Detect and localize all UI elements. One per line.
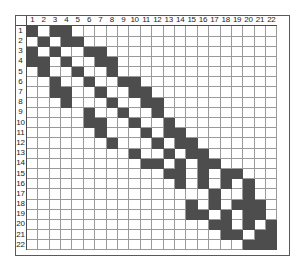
matrix-cell-r5-c20[interactable] — [243, 67, 254, 77]
matrix-cell-r15-c9[interactable] — [118, 168, 129, 178]
matrix-cell-r13-c22[interactable] — [266, 148, 277, 158]
matrix-cell-r18-c18[interactable] — [220, 199, 231, 209]
matrix-cell-r4-c3[interactable] — [49, 56, 60, 66]
matrix-cell-r22-c1[interactable] — [26, 240, 37, 250]
matrix-cell-r11-c1[interactable] — [26, 128, 37, 138]
matrix-cell-r13-c15[interactable] — [186, 148, 197, 158]
matrix-cell-r6-c5[interactable] — [72, 77, 83, 87]
matrix-cell-r19-c15[interactable] — [186, 209, 197, 219]
matrix-cell-r10-c1[interactable] — [26, 118, 37, 128]
matrix-cell-r7-c14[interactable] — [174, 87, 185, 97]
matrix-cell-r9-c4[interactable] — [61, 107, 72, 117]
matrix-cell-r16-c3[interactable] — [49, 179, 60, 189]
row-header-10[interactable]: 10 — [15, 118, 26, 128]
matrix-cell-r18-c6[interactable] — [83, 199, 94, 209]
matrix-cell-r19-c10[interactable] — [129, 209, 140, 219]
matrix-cell-r20-c2[interactable] — [38, 219, 49, 229]
matrix-cell-r1-c8[interactable] — [106, 26, 117, 37]
matrix-cell-r7-c20[interactable] — [243, 87, 254, 97]
column-header-17[interactable]: 17 — [209, 15, 220, 26]
matrix-cell-r16-c15[interactable] — [186, 179, 197, 189]
matrix-cell-r7-c17[interactable] — [209, 87, 220, 97]
matrix-cell-r10-c15[interactable] — [186, 118, 197, 128]
matrix-cell-r3-c18[interactable] — [220, 46, 231, 56]
matrix-cell-r8-c21[interactable] — [254, 97, 265, 107]
matrix-cell-r14-c6[interactable] — [83, 158, 94, 168]
matrix-cell-r19-c14[interactable] — [174, 209, 185, 219]
matrix-cell-r13-c7[interactable] — [95, 148, 106, 158]
matrix-cell-r9-c10[interactable] — [129, 107, 140, 117]
matrix-cell-r14-c8[interactable] — [106, 158, 117, 168]
matrix-cell-r15-c12[interactable] — [152, 168, 163, 178]
matrix-cell-r18-c13[interactable] — [163, 199, 174, 209]
matrix-cell-r13-c14[interactable] — [174, 148, 185, 158]
matrix-cell-r10-c5[interactable] — [72, 118, 83, 128]
matrix-cell-r22-c2[interactable] — [38, 240, 49, 250]
matrix-cell-r17-c16[interactable] — [197, 189, 208, 199]
column-header-4[interactable]: 4 — [61, 15, 72, 26]
matrix-cell-r5-c12[interactable] — [152, 67, 163, 77]
matrix-cell-r18-c17[interactable] — [209, 199, 220, 209]
matrix-cell-r6-c18[interactable] — [220, 77, 231, 87]
matrix-cell-r11-c18[interactable] — [220, 128, 231, 138]
matrix-cell-r18-c21[interactable] — [254, 199, 265, 209]
matrix-cell-r16-c16[interactable] — [197, 179, 208, 189]
matrix-cell-r15-c21[interactable] — [254, 168, 265, 178]
matrix-cell-r17-c8[interactable] — [106, 189, 117, 199]
matrix-cell-r14-c13[interactable] — [163, 158, 174, 168]
matrix-cell-r8-c8[interactable] — [106, 97, 117, 107]
matrix-cell-r13-c19[interactable] — [231, 148, 242, 158]
matrix-cell-r9-c7[interactable] — [95, 107, 106, 117]
matrix-cell-r22-c10[interactable] — [129, 240, 140, 250]
matrix-cell-r6-c4[interactable] — [61, 77, 72, 87]
matrix-cell-r14-c17[interactable] — [209, 158, 220, 168]
matrix-cell-r22-c5[interactable] — [72, 240, 83, 250]
matrix-cell-r2-c12[interactable] — [152, 36, 163, 46]
matrix-cell-r21-c7[interactable] — [95, 230, 106, 240]
matrix-cell-r2-c5[interactable] — [72, 36, 83, 46]
matrix-cell-r5-c19[interactable] — [231, 67, 242, 77]
matrix-cell-r1-c17[interactable] — [209, 26, 220, 37]
matrix-cell-r12-c3[interactable] — [49, 138, 60, 148]
matrix-cell-r3-c8[interactable] — [106, 46, 117, 56]
matrix-cell-r4-c12[interactable] — [152, 56, 163, 66]
matrix-cell-r18-c9[interactable] — [118, 199, 129, 209]
matrix-cell-r14-c18[interactable] — [220, 158, 231, 168]
matrix-cell-r16-c22[interactable] — [266, 179, 277, 189]
matrix-cell-r14-c16[interactable] — [197, 158, 208, 168]
matrix-cell-r14-c1[interactable] — [26, 158, 37, 168]
matrix-cell-r13-c5[interactable] — [72, 148, 83, 158]
matrix-cell-r12-c5[interactable] — [72, 138, 83, 148]
matrix-cell-r12-c6[interactable] — [83, 138, 94, 148]
matrix-cell-r19-c12[interactable] — [152, 209, 163, 219]
matrix-cell-r20-c8[interactable] — [106, 219, 117, 229]
matrix-cell-r17-c1[interactable] — [26, 189, 37, 199]
matrix-cell-r21-c18[interactable] — [220, 230, 231, 240]
matrix-cell-r4-c16[interactable] — [197, 56, 208, 66]
matrix-cell-r3-c14[interactable] — [174, 46, 185, 56]
matrix-cell-r20-c17[interactable] — [209, 219, 220, 229]
matrix-cell-r6-c3[interactable] — [49, 77, 60, 87]
matrix-cell-r10-c3[interactable] — [49, 118, 60, 128]
column-header-20[interactable]: 20 — [243, 15, 254, 26]
matrix-cell-r18-c16[interactable] — [197, 199, 208, 209]
matrix-cell-r4-c18[interactable] — [220, 56, 231, 66]
matrix-cell-r17-c2[interactable] — [38, 189, 49, 199]
matrix-cell-r11-c9[interactable] — [118, 128, 129, 138]
row-header-19[interactable]: 19 — [15, 209, 26, 219]
column-header-8[interactable]: 8 — [106, 15, 117, 26]
matrix-cell-r7-c21[interactable] — [254, 87, 265, 97]
matrix-cell-r8-c15[interactable] — [186, 97, 197, 107]
matrix-cell-r19-c17[interactable] — [209, 209, 220, 219]
matrix-cell-r13-c2[interactable] — [38, 148, 49, 158]
matrix-cell-r15-c6[interactable] — [83, 168, 94, 178]
matrix-cell-r8-c11[interactable] — [140, 97, 151, 107]
matrix-cell-r9-c9[interactable] — [118, 107, 129, 117]
matrix-cell-r5-c16[interactable] — [197, 67, 208, 77]
matrix-cell-r11-c6[interactable] — [83, 128, 94, 138]
matrix-cell-r5-c18[interactable] — [220, 67, 231, 77]
matrix-cell-r3-c12[interactable] — [152, 46, 163, 56]
column-header-9[interactable]: 9 — [118, 15, 129, 26]
matrix-cell-r22-c8[interactable] — [106, 240, 117, 250]
matrix-cell-r12-c16[interactable] — [197, 138, 208, 148]
